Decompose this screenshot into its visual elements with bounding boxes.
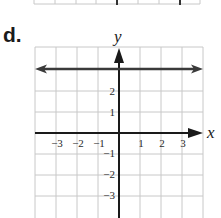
y-tick: 2	[110, 85, 116, 97]
y-tick: −1	[103, 147, 115, 159]
problem-label: d.	[3, 23, 22, 46]
y-tick: −3	[103, 189, 115, 201]
x-tick: 2	[159, 137, 165, 149]
y-axis-label: y	[112, 27, 122, 46]
y-tick: 1	[110, 106, 116, 118]
graph-figure: d. y x −3 −2 −1 1 2	[0, 0, 221, 218]
x-tick: −2	[72, 137, 84, 149]
x-axis-label: x	[206, 123, 215, 142]
x-tick: 3	[180, 137, 186, 149]
y-tick-labels: 2 1 −1 −2 −3	[103, 85, 115, 201]
previous-graph-remnant	[34, 0, 200, 5]
x-tick: −3	[51, 137, 63, 149]
y-tick: −2	[103, 168, 115, 180]
x-tick: 1	[138, 137, 144, 149]
